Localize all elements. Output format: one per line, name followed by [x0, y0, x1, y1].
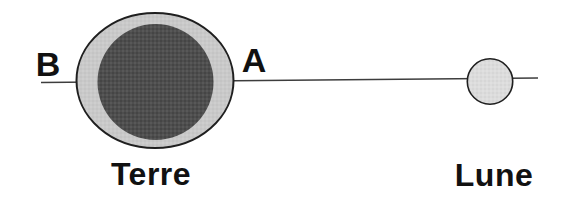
label-point-b: B [36, 45, 61, 83]
label-moon: Lune [455, 157, 533, 193]
diagram-canvas: B A Terre Lune [0, 0, 567, 209]
moon-circle [467, 59, 512, 104]
earth-body-circle [98, 24, 214, 140]
label-earth: Terre [111, 156, 191, 192]
figure-container: B A Terre Lune [0, 0, 567, 209]
label-point-a: A [242, 41, 267, 79]
